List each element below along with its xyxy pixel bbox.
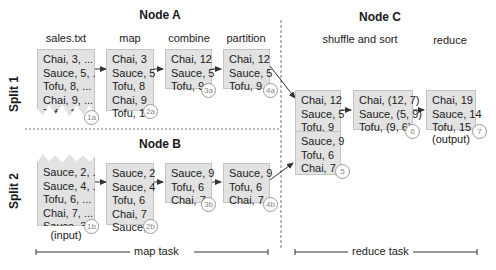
node-a-title: Node A [120,8,200,22]
line: Tofu, 8, ... [43,80,94,94]
step-badge-3b: 3b [201,197,216,212]
stage-title-map: map [105,32,155,44]
split-1-label: Split 1 [7,68,21,112]
line: Sauce, 9 [301,135,340,149]
line: Sauce, 14 [432,108,475,122]
line: Tofu, 6 [171,181,211,195]
line: Sauce, (5, 9) [359,108,412,122]
step-badge-5: 5 [335,164,350,179]
step-badge-1a: 1a [84,110,99,125]
line: Sauce, 2, ... [43,166,94,180]
line: Chai, 7, ... [43,207,94,221]
box-shuffle-from-split1: Chai, 12 Sauce, 5 Tofu, 9 [295,90,341,132]
stage-title-shuffle: shuffle and sort [310,33,410,45]
stage-title-reduce: reduce [425,34,475,46]
line: Tofu, 6, ... [43,193,94,207]
box-partition-split1: Chai, 12 Sauce, 5 Tofu, 9 [223,49,270,89]
box-shuffle-sort: Chai, (12, 7) Sauce, (5, 9) Tofu, (9, 6) [353,90,413,130]
line: Tofu, 6 [112,194,153,208]
line: Chai, (12, 7) [359,94,412,108]
box-reduce-output: Chai, 19 Sauce, 14 Tofu, 15 [426,90,476,130]
step-badge-2b: 2b [143,219,158,234]
line: Sauce, 5 [171,67,211,81]
line: Chai, 12 [229,53,269,67]
node-b-title: Node B [120,137,200,151]
output-caption: (output) [426,133,476,145]
line: Chai, 12 [301,94,340,108]
step-badge-4b: 4b [263,197,278,212]
box-partition-split2: Sauce, 9 Tofu, 6 Chai, 7 [223,163,270,203]
stage-title-partition: partition [220,32,272,44]
box-shuffle-from-split2: Sauce, 9 Tofu, 6 Chai, 7 [295,131,341,175]
split-2-label: Split 2 [7,165,21,209]
step-badge-6: 6 [405,124,420,139]
map-task-label: map task [130,245,183,257]
line: Sauce, 9 [171,167,211,181]
box-input-split1: Chai, 3, ... Sauce, 5, ... Tofu, 8, ... … [37,49,95,119]
line: Sauce, 5 [112,67,153,81]
line: Chai, 3 [112,53,153,67]
box-map-split2: Sauce, 2 Sauce, 4 Tofu, 6 Chai, 7 Sauce,… [106,163,154,225]
box-map-split1: Chai, 3 Sauce, 5 Tofu, 8 Chai, 9 Tofu, 1 [106,49,154,111]
step-badge-3a: 3a [201,83,216,98]
line: Tofu, 6 [229,181,269,195]
line: Sauce, 4 [112,181,153,195]
line: Chai, 3, ... [43,53,94,67]
line: Tofu, 8 [112,80,153,94]
line: Chai, 9, ... [43,94,94,108]
line: Sauce, 5, ... [43,67,94,81]
line: Tofu, (9, 6) [359,121,412,135]
line: Chai, 7 [301,162,340,176]
input-caption: (input) [37,229,95,241]
line: Chai, 19 [432,94,475,108]
line: Sauce, 5 [301,108,340,122]
node-c-title: Node C [340,10,420,24]
reduce-task-label: reduce task [348,245,413,257]
line: Tofu, 6 [301,149,340,163]
line: Sauce, 9 [229,167,269,181]
step-badge-4a: 4a [263,83,278,98]
box-input-split2: Sauce, 2, ... Sauce, 4, ... Tofu, 6, ...… [37,154,95,226]
step-badge-2a: 2a [143,104,158,119]
line: Sauce, 2 [112,167,153,181]
stage-title-input: sales.txt [36,32,96,44]
line: Sauce, 5 [229,67,269,81]
stage-title-combine: combine [163,32,215,44]
line: Sauce, 4, ... [43,180,94,194]
line: Chai, 12 [171,53,211,67]
